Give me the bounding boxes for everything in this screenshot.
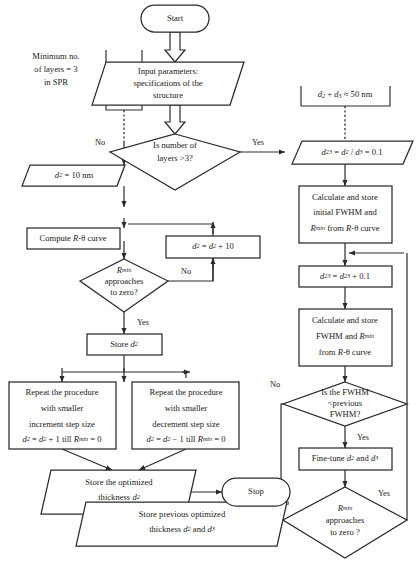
- node-decision-fwhm-line1: Is the FWHM: [321, 387, 369, 397]
- node-start-label: Start: [167, 13, 184, 23]
- node-decision-fwhm-line2: <previous: [328, 398, 363, 408]
- node-decision-rmin-left-line3: to zero?: [110, 287, 138, 297]
- edge-rmin-yes-right: [399, 253, 407, 520]
- node-calc-initial-line2: initial FWHM and: [313, 207, 377, 217]
- node-calc-fwhm-line1: Calculate and store: [312, 315, 378, 325]
- edge-label-yes-rmin-left: Yes: [137, 318, 149, 327]
- node-repeat-decrement[interactable]: Repeat the procedure with smaller decrem…: [132, 382, 239, 449]
- edge-label-no-layers: No: [95, 138, 105, 147]
- node-store-d2[interactable]: Store d2: [87, 334, 162, 355]
- node-repeat-incr-line1: Repeat the procedure: [25, 387, 98, 397]
- note-sum-label: d2 + d3 ≈ 50 nm: [318, 89, 373, 99]
- node-repeat-decr-line1: Repeat the procedure: [149, 387, 222, 397]
- node-stop-label: Stop: [248, 486, 264, 496]
- node-decision-rmin-right-line2: approaches: [326, 515, 365, 525]
- node-calc-fwhm-line3: from R-θ curve: [319, 347, 372, 357]
- node-store-prev-line2: thickness d2 and d3: [149, 524, 215, 534]
- node-calc-fwhm[interactable]: Calculate and store FWHM and Rmin from R…: [299, 309, 392, 366]
- annotation-min-layers: Minimum no. of layers = 3 in SPR: [32, 51, 79, 87]
- node-store-optimized-line2: thickness d2: [98, 492, 140, 502]
- node-repeat-decr-line4: d2 = d2 − 1 till Rmin = 0: [146, 434, 225, 444]
- flowchart-canvas: Start Input parameters: specifications o…: [0, 0, 417, 570]
- node-d23-init[interactable]: d23 = d2 / d3 = 0.1: [292, 141, 413, 164]
- node-d2-increment[interactable]: d2 = d2 + 10: [166, 236, 260, 258]
- node-fine-tune-label: Fine-tune d2 and d3: [312, 453, 379, 463]
- edge-input-to-decision: [165, 105, 185, 134]
- edge-repeatdecr-to-store: [139, 449, 186, 470]
- note-minlayers-line2: of layers = 3: [34, 64, 77, 74]
- edge-label-no-rmin-left: No: [181, 267, 191, 276]
- node-store-prev-line1: Store previous optimized: [139, 509, 226, 519]
- node-repeat-incr-line3: increment step size: [29, 419, 95, 429]
- node-store-optimized-line1: Store the optimized: [85, 477, 153, 487]
- edge-label-yes-rmin-right: Yes: [378, 489, 390, 498]
- node-start[interactable]: Start: [141, 5, 209, 32]
- node-decision-layers-line2: layers >3?: [157, 153, 193, 163]
- node-d2-init[interactable]: d2 = 10 nm: [22, 165, 125, 186]
- node-compute-curve[interactable]: Compute R-θ curve: [27, 228, 120, 249]
- node-decision-layers[interactable]: Is number of layers >3?: [110, 134, 240, 190]
- node-d23-increment[interactable]: d23 = d23 + 0.1: [299, 266, 392, 287]
- node-input-line2: specifications of the: [133, 78, 202, 88]
- node-calc-initial[interactable]: Calculate and store initial FWHM and Rmi…: [299, 186, 392, 243]
- note-minlayers-line3: in SPR: [44, 77, 68, 87]
- node-input-line3: structure: [153, 90, 183, 100]
- node-decision-rmin-left[interactable]: Rmin approaches to zero?: [80, 259, 168, 312]
- edge-label-no-fwhm: No: [270, 380, 280, 389]
- node-decision-layers-line1: Is number of: [153, 140, 197, 150]
- node-repeat-decr-line3: decrement step size: [152, 419, 219, 429]
- node-input-line1: Input parameters:: [138, 66, 198, 76]
- node-repeat-incr-line2: with smaller: [41, 403, 84, 413]
- node-repeat-increment[interactable]: Repeat the procedure with smaller increm…: [9, 382, 116, 449]
- node-compute-curve-label: Compute R-θ curve: [39, 233, 106, 243]
- node-store-d2-label: Store d2: [110, 339, 138, 349]
- node-decision-fwhm[interactable]: Is the FWHM <previous FWHM?: [283, 382, 407, 426]
- node-fine-tune[interactable]: Fine-tune d2 and d3: [299, 448, 392, 470]
- node-repeat-decr-line2: with smaller: [165, 403, 208, 413]
- note-minlayers-line1: Minimum no.: [32, 51, 79, 61]
- edge-label-yes-layers: Yes: [252, 138, 264, 147]
- node-store-prev-optimized[interactable]: Store previous optimized thickness d2 an…: [76, 502, 287, 546]
- edge-repeatincr-to-store: [62, 449, 112, 470]
- node-decision-fwhm-line3: FWHM?: [330, 409, 361, 419]
- node-input-parameters[interactable]: Input parameters: specifications of the …: [92, 62, 244, 105]
- node-calc-initial-line1: Calculate and store: [312, 192, 378, 202]
- node-decision-rmin-right-line3: to zero ?: [330, 527, 360, 537]
- node-stop[interactable]: Stop: [222, 478, 290, 506]
- edge-label-yes-fwhm: Yes: [357, 433, 369, 442]
- edge-start-to-input: [165, 32, 185, 62]
- node-repeat-incr-line4: d2 = d2 + 1 till Rmin = 0: [22, 434, 101, 444]
- annotation-sum-thickness: d2 + d3 ≈ 50 nm: [318, 89, 373, 99]
- node-decision-rmin-left-line2: approaches: [105, 276, 144, 286]
